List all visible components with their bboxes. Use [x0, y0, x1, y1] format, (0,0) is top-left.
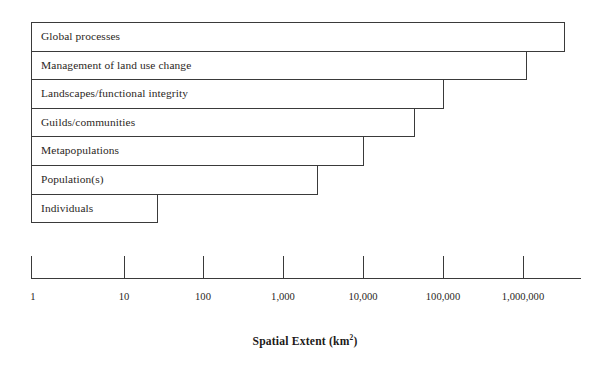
axis-tick-label: 1,000,000 [502, 292, 544, 303]
axis-tick-label: 10,000 [348, 292, 377, 303]
bar-label: Guilds/communities [32, 117, 135, 128]
axis-tick-label: 100 [195, 292, 211, 303]
bar-row: Management of land use change [31, 51, 527, 81]
bar-row: Global processes [31, 22, 565, 52]
axis-tick-label: 1,000 [271, 292, 295, 303]
axis-tick-label: 10 [119, 292, 130, 303]
axis-tick [31, 256, 32, 279]
bar-label: Global processes [32, 31, 120, 42]
axis-title: Spatial Extent (km2) [0, 335, 610, 348]
axis-tick-label: 100,000 [426, 292, 460, 303]
axis-tick [124, 256, 125, 279]
bar-row: Individuals [31, 194, 158, 224]
bar-label: Individuals [32, 203, 93, 214]
axis-tick [443, 256, 444, 279]
axis-tick [203, 256, 204, 279]
axis-baseline [31, 278, 581, 279]
bar-row: Guilds/communities [31, 108, 415, 138]
bar-label: Population(s) [32, 174, 104, 185]
bar-row: Landscapes/functional integrity [31, 79, 444, 109]
bar-label: Metapopulations [32, 145, 119, 156]
bar-label: Landscapes/functional integrity [32, 88, 188, 99]
spatial-extent-chart: Global processesManagement of land use c… [0, 0, 610, 365]
axis-title-close: ) [353, 335, 357, 348]
bar-row: Metapopulations [31, 136, 364, 166]
axis-tick [283, 256, 284, 279]
bar-label: Management of land use change [32, 60, 191, 71]
axis-tick-label: 1 [30, 292, 35, 303]
axis-tick [363, 256, 364, 279]
bar-row: Population(s) [31, 165, 318, 195]
axis-title-text: Spatial Extent (km [253, 335, 350, 348]
axis-tick [523, 256, 524, 279]
